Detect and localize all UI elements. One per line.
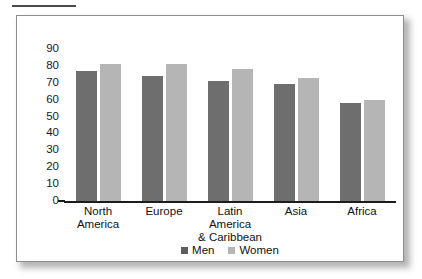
bar-group: [329, 49, 395, 201]
figure-frame: 9080706050403020100 NorthAmericaEuropeLa…: [16, 15, 404, 262]
y-tick-30: 30: [46, 145, 59, 157]
bar-women: [166, 64, 187, 201]
category-label: Europe: [131, 205, 197, 244]
y-tick-40: 40: [46, 128, 59, 140]
legend-item-women[interactable]: Women: [228, 245, 278, 257]
category-label-line: Latin America: [197, 205, 263, 231]
category-label: NorthAmerica: [65, 205, 131, 244]
plot-area: 9080706050403020100: [65, 49, 395, 201]
bar-group: [65, 49, 131, 201]
bar-group: [263, 49, 329, 201]
bar-women: [298, 78, 319, 201]
category-label-line: America: [65, 218, 131, 231]
category-label-line: Europe: [131, 205, 197, 218]
category-label-line: North: [65, 205, 131, 218]
y-tick-20: 20: [46, 161, 59, 173]
chart-page: 9080706050403020100 NorthAmericaEuropeLa…: [0, 0, 422, 279]
bar-group: [131, 49, 197, 201]
bar-men: [340, 103, 361, 201]
y-tick-80: 80: [46, 60, 59, 72]
x-axis-line: [64, 201, 396, 203]
chart-legend: MenWomen: [65, 245, 395, 257]
y-tick-60: 60: [46, 94, 59, 106]
bar-women: [232, 69, 253, 201]
y-tick-10: 10: [46, 178, 59, 190]
category-label: Africa: [329, 205, 395, 244]
y-tick-50: 50: [46, 111, 59, 123]
category-label: Latin America& Caribbean: [197, 205, 263, 244]
category-label-line: Asia: [263, 205, 329, 218]
x-axis-category-labels: NorthAmericaEuropeLatin America& Caribbe…: [65, 205, 395, 244]
men-swatch: [181, 247, 188, 254]
bar-men: [274, 84, 295, 201]
category-label-line: Africa: [329, 205, 395, 218]
bar-men: [76, 71, 97, 201]
bar-men: [142, 76, 163, 201]
category-label: Asia: [263, 205, 329, 244]
y-tick-70: 70: [46, 77, 59, 89]
y-tick-90: 90: [46, 43, 59, 55]
bar-men: [208, 81, 229, 201]
women-swatch: [228, 247, 235, 254]
bar-women: [100, 64, 121, 201]
bar-group: [197, 49, 263, 201]
category-label-line: & Caribbean: [197, 231, 263, 244]
bar-women: [364, 100, 385, 201]
legend-label: Men: [192, 245, 214, 257]
legend-label: Women: [239, 245, 278, 257]
bar-groups: [65, 49, 395, 201]
legend-item-men[interactable]: Men: [181, 245, 214, 257]
top-rule-divider: [12, 5, 76, 7]
